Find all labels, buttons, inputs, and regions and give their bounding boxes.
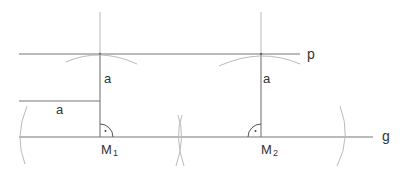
right-angle-dot-m2 [255, 130, 257, 132]
label-point-m2-main: M [261, 142, 272, 157]
label-line-g: g [382, 128, 390, 144]
label-distance-a-m1: a [104, 71, 112, 86]
label-line-p: p [307, 46, 315, 62]
label-point-m2-sub: 2 [273, 148, 278, 158]
construction-arc-left [20, 106, 27, 164]
label-point-m1-sub: 1 [113, 148, 118, 158]
right-angle-mark-m1 [100, 124, 113, 137]
right-angle-dot-m1 [105, 130, 107, 132]
label-point-m1-main: M [101, 142, 112, 157]
label-distance-a-reference: a [56, 102, 64, 117]
intersection-point-m2-p [260, 53, 262, 55]
construction-arc-m2-top [219, 56, 300, 66]
right-angle-mark-m2 [248, 124, 261, 137]
construction-arc-m1-top [66, 55, 137, 64]
construction-arc-right [337, 106, 345, 166]
label-point-m2: M 2 [261, 142, 278, 158]
parallel-construction-diagram: a a a p g M 1 M 2 [0, 0, 409, 169]
label-point-m1: M 1 [101, 142, 118, 158]
label-distance-a-m2: a [263, 71, 271, 86]
